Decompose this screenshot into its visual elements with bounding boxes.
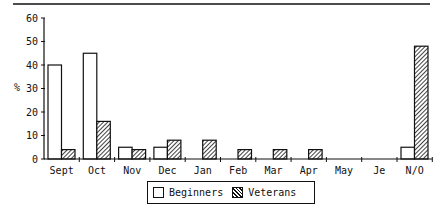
y-tick-label: 60 [26, 13, 38, 24]
y-tick-label: 50 [26, 36, 38, 47]
x-tick-label: Nov [123, 165, 141, 176]
beginners-bar [48, 65, 62, 159]
veterans-bar [415, 46, 429, 159]
x-tick-label: N/O [406, 165, 424, 176]
veterans-bar [203, 140, 217, 159]
x-tick-label: Mar [264, 165, 282, 176]
y-tick-label: 30 [26, 83, 38, 94]
x-tick-label: Jan [194, 165, 212, 176]
veterans-bar [309, 150, 323, 159]
veterans-bar [132, 150, 146, 159]
veterans-bar [273, 150, 287, 159]
y-axis-label: % [14, 82, 20, 93]
beginners-bar [154, 147, 168, 159]
beginners-bar [401, 147, 415, 159]
beginners-swatch-icon [153, 187, 164, 198]
y-tick-label: 0 [32, 154, 38, 165]
legend-label-beginners: Beginners [169, 187, 223, 198]
y-tick-label: 20 [26, 107, 38, 118]
x-tick-label: Je [373, 165, 385, 176]
y-tick-label: 40 [26, 60, 38, 71]
x-tick-label: May [335, 165, 353, 176]
x-tick-label: Dec [159, 165, 177, 176]
legend-item-veterans: Veterans [232, 187, 296, 198]
veterans-bar [97, 121, 111, 159]
x-tick-label: Oct [88, 165, 106, 176]
y-tick-label: 10 [26, 130, 38, 141]
x-axis: SeptOctNovDecJanFebMarAprMayJeN/O [44, 157, 432, 176]
x-tick-label: Apr [300, 165, 318, 176]
bars [48, 46, 428, 159]
beginners-bar [83, 53, 97, 159]
x-tick-label: Feb [229, 165, 247, 176]
legend: Beginners Veterans [147, 181, 315, 204]
legend-label-veterans: Veterans [248, 187, 296, 198]
veterans-bar [167, 140, 181, 159]
legend-item-beginners: Beginners [153, 187, 223, 198]
beginners-bar [119, 147, 133, 159]
y-axis: 0102030405060 [26, 13, 45, 165]
veterans-swatch-icon [232, 187, 243, 198]
veterans-bar [238, 150, 252, 159]
x-tick-label: Sept [50, 165, 74, 176]
veterans-bar [62, 150, 76, 159]
